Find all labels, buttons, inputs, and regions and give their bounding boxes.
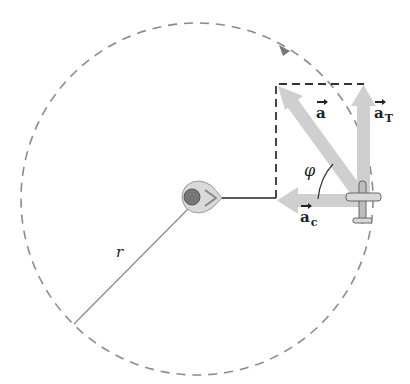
label-aT-base: a xyxy=(374,106,384,121)
diagram-canvas xyxy=(0,0,410,384)
label-a-centripetal: ac xyxy=(300,210,317,225)
observer-person-icon xyxy=(182,181,222,213)
label-phi: φ xyxy=(304,163,315,179)
label-a-tangential: aT xyxy=(374,106,393,121)
label-radius: r xyxy=(116,245,123,260)
label-a: a xyxy=(316,106,326,121)
phi-angle-arc xyxy=(318,164,333,199)
total-acceleration-arrow xyxy=(278,86,360,196)
circular-motion-diagram: a aT ac φ r xyxy=(0,0,410,384)
label-aT-subscript: T xyxy=(385,112,393,125)
label-a-text: a xyxy=(316,106,326,121)
radius-line xyxy=(74,207,190,324)
label-ac-base: a xyxy=(300,210,310,225)
label-ac-subscript: c xyxy=(311,216,318,229)
